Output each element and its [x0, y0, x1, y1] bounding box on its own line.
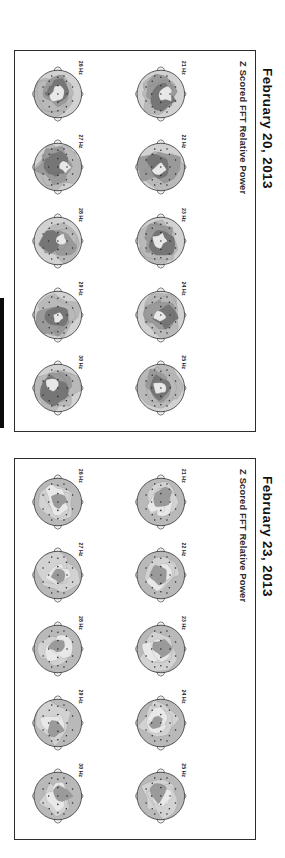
page-edge-rule	[0, 298, 4, 428]
topomap-cell: 21 Hz	[134, 468, 222, 536]
topomap-grid-feb23: 21 Hz 22 Hz 23 Hz 24 Hz	[23, 465, 241, 833]
scalp-head-icon	[134, 212, 192, 270]
panel-border-box-feb23: Z Scored FFT Relative Power 21 Hz 22 Hz …	[14, 458, 256, 840]
topomap-row: 21 Hz 22 Hz 23 Hz 24 Hz	[126, 57, 229, 425]
topomap-cell: 29 Hz	[31, 281, 119, 349]
topomap-grid-feb20: 21 Hz 22 Hz 23 Hz 24 Hz	[23, 57, 241, 425]
topomap-cell: 29 Hz	[31, 689, 119, 757]
topomap-cell: 25 Hz	[134, 354, 222, 422]
scalp-head-icon	[134, 138, 192, 196]
panel-feb20: February 20, 2013 Z Scored FFT Relative …	[0, 42, 285, 450]
scalp-head-icon	[134, 546, 192, 604]
topomap-cell: 23 Hz	[134, 615, 222, 683]
scalp-head-icon	[134, 694, 192, 752]
scalp-head-icon	[31, 473, 89, 531]
topomap-cell: 25 Hz	[134, 762, 222, 830]
topomap-row: 26 Hz 27 Hz 28 Hz 29 Hz	[23, 465, 126, 833]
topomap-cell: 27 Hz	[31, 541, 119, 609]
panel-feb23: February 23, 2013 Z Scored FFT Relative …	[0, 450, 285, 858]
topomap-cell: 21 Hz	[134, 60, 222, 128]
scalp-head-icon	[31, 694, 89, 752]
scalp-head-icon	[31, 286, 89, 344]
scalp-head-icon	[134, 286, 192, 344]
topomap-cell: 22 Hz	[134, 541, 222, 609]
scalp-head-icon	[31, 546, 89, 604]
panel-subtitle-feb20: Z Scored FFT Relative Power	[238, 61, 249, 194]
topomap-cell: 30 Hz	[31, 762, 119, 830]
scalp-head-icon	[31, 65, 89, 123]
topomap-row: 21 Hz 22 Hz 23 Hz 24 Hz	[126, 465, 229, 833]
topomap-cell: 26 Hz	[31, 468, 119, 536]
topomap-cell: 24 Hz	[134, 689, 222, 757]
topomap-cell: 27 Hz	[31, 133, 119, 201]
panel-subtitle-feb23: Z Scored FFT Relative Power	[238, 469, 249, 602]
scalp-head-icon	[134, 473, 192, 531]
scalp-head-icon	[134, 359, 192, 417]
topomap-cell: 23 Hz	[134, 207, 222, 275]
scalp-head-icon	[31, 620, 89, 678]
topomap-cell: 24 Hz	[134, 281, 222, 349]
panel-border-box-feb20: Z Scored FFT Relative Power 21 Hz 22 Hz …	[14, 50, 256, 432]
scalp-head-icon	[134, 65, 192, 123]
topomap-cell: 28 Hz	[31, 615, 119, 683]
eeg-topomap-figure: February 23, 2013 Z Scored FFT Relative …	[0, 0, 285, 858]
panel-date-feb20: February 20, 2013	[260, 68, 275, 450]
topomap-cell: 28 Hz	[31, 207, 119, 275]
scalp-head-icon	[31, 767, 89, 825]
scalp-head-icon	[31, 359, 89, 417]
topomap-cell: 22 Hz	[134, 133, 222, 201]
topomap-cell: 26 Hz	[31, 60, 119, 128]
scalp-head-icon	[134, 767, 192, 825]
scalp-head-icon	[134, 620, 192, 678]
topomap-row: 26 Hz 27 Hz 28 Hz 29 Hz	[23, 57, 126, 425]
scalp-head-icon	[31, 138, 89, 196]
scalp-head-icon	[31, 212, 89, 270]
panel-date-feb23: February 23, 2013	[260, 476, 275, 858]
topomap-cell: 30 Hz	[31, 354, 119, 422]
rotated-figure-canvas: February 23, 2013 Z Scored FFT Relative …	[0, 0, 285, 858]
